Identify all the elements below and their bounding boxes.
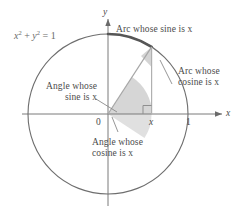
angle-cosine-sector: [108, 114, 152, 138]
tick-label-one: 1: [186, 117, 191, 127]
equation-plus: +: [22, 30, 33, 41]
annotation-angle-cosine-line2: cosine is x: [92, 148, 143, 159]
y-axis-label: y: [103, 7, 107, 17]
tick-label-foot-x: x: [149, 117, 153, 127]
equation-equals: = 1: [40, 30, 56, 41]
unit-circle-figure: x2 + y2 = 1 Arc whose sine is x Arc whos…: [0, 0, 239, 213]
annotation-arc-sine: Arc whose sine is x: [116, 24, 192, 35]
annotation-angle-sine: Angle whose sine is x: [33, 81, 97, 102]
tick-label-origin: 0: [96, 117, 101, 127]
annotation-angle-sine-line2: sine is x: [33, 92, 97, 103]
arc-sine-highlight: [108, 34, 152, 47]
x-axis-arrowhead: [215, 111, 222, 116]
annotation-arc-cosine-line2: cosine is x: [178, 77, 220, 88]
annotation-angle-cosine-line1: Angle whose: [92, 137, 143, 148]
circle-equation-label: x2 + y2 = 1: [14, 30, 56, 41]
annotation-arc-cosine: Arc whose cosine is x: [178, 66, 220, 87]
x-axis-label: x: [226, 108, 230, 118]
annotation-angle-sine-line1: Angle whose: [33, 81, 97, 92]
angle-sine-sector: [108, 77, 152, 114]
y-axis-arrowhead: [105, 19, 110, 26]
annotation-angle-cosine: Angle whose cosine is x: [92, 137, 143, 158]
annotation-arc-cosine-line1: Arc whose: [178, 66, 220, 77]
